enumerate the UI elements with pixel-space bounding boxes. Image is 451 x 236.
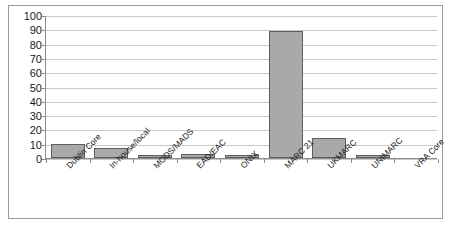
bar-slot [264, 16, 308, 158]
bar [269, 31, 303, 158]
x-tick-mark [220, 159, 221, 163]
chart-frame: 1009080706050403020100 Dublin CoreIn-hou… [8, 5, 443, 219]
y-tick-label: 40 [14, 96, 42, 107]
y-tick-label: 70 [14, 53, 42, 64]
y-tick-label: 90 [14, 25, 42, 36]
y-tick-label: 50 [14, 82, 42, 93]
y-tick-label: 100 [14, 11, 42, 22]
x-tick-mark [90, 159, 91, 163]
y-tick-label: 20 [14, 125, 42, 136]
plot-area [45, 16, 437, 159]
y-tick-label: 30 [14, 111, 42, 122]
y-tick-label: 10 [14, 139, 42, 150]
bar-slot [220, 16, 264, 158]
y-tick-label: 80 [14, 39, 42, 50]
bar-slot [351, 16, 395, 158]
x-tick-mark [264, 159, 265, 163]
bar-series [46, 16, 437, 158]
bar-slot [394, 16, 438, 158]
bar-slot [307, 16, 351, 158]
x-tick-mark [394, 159, 395, 163]
y-tick-label: 0 [14, 154, 42, 165]
x-tick-mark [307, 159, 308, 163]
bar-slot [46, 16, 90, 158]
x-tick-mark [438, 159, 439, 163]
x-tick-mark [133, 159, 134, 163]
figure-caption [10, 224, 440, 236]
chart-figure: 1009080706050403020100 Dublin CoreIn-hou… [0, 0, 451, 236]
x-axis-labels: Dublin CoreIn-house/localMODS/MADSEAD/EA… [45, 164, 437, 220]
x-tick-mark [46, 159, 47, 163]
x-tick-mark [351, 159, 352, 163]
x-tick-mark [177, 159, 178, 163]
y-tick-label: 60 [14, 68, 42, 79]
y-axis: 1009080706050403020100 [9, 16, 42, 159]
